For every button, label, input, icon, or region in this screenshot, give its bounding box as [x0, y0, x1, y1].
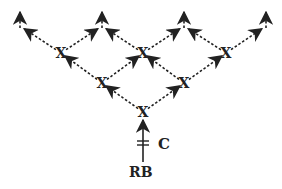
division-arrow	[148, 86, 180, 109]
division-arrow	[106, 29, 138, 50]
node-label: X	[138, 45, 149, 61]
division-arrow	[189, 56, 222, 80]
root-label: RB	[129, 164, 153, 180]
node-label: X	[138, 104, 149, 120]
node-label: X	[221, 45, 232, 61]
node-label: X	[97, 75, 108, 91]
division-arrow	[106, 86, 138, 109]
division-arrow	[188, 29, 221, 50]
node-label: X	[56, 45, 67, 61]
division-arrow	[107, 56, 139, 80]
division-arrow	[231, 29, 262, 50]
stem-label: C	[158, 135, 170, 153]
division-arrow	[65, 56, 97, 80]
lineage-diagram: C RB XXXXXX	[0, 0, 282, 189]
division-arrow	[147, 56, 179, 80]
division-arrow	[148, 29, 180, 50]
division-arrow	[66, 29, 98, 50]
division-arrow	[24, 29, 56, 50]
node-label: X	[179, 75, 190, 91]
